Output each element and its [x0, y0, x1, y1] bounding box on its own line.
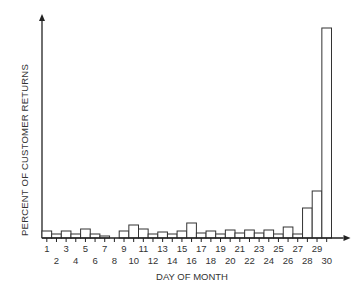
x-tick-label: 26 [283, 255, 294, 266]
bar-day-3 [61, 231, 71, 238]
x-tick-label: 1 [44, 243, 49, 254]
bar-day-15 [177, 231, 187, 238]
x-tick-label: 13 [157, 243, 168, 254]
x-axis-arrow-icon [344, 235, 351, 241]
x-tick-label: 3 [63, 243, 68, 254]
bar-day-30 [322, 28, 332, 238]
x-tick-label: 19 [215, 243, 226, 254]
x-tick-label: 6 [92, 255, 97, 266]
x-tick-label: 4 [73, 255, 78, 266]
bar-day-16 [187, 223, 197, 238]
bar-day-24 [264, 230, 274, 238]
x-tick-label: 7 [102, 243, 107, 254]
bar-day-9 [119, 231, 129, 238]
bar-day-22 [245, 230, 255, 238]
x-tick-label: 24 [263, 255, 274, 266]
x-tick-label: 23 [254, 243, 265, 254]
x-tick-label: 28 [302, 255, 313, 266]
x-tick-label: 16 [186, 255, 197, 266]
bar-day-23 [254, 233, 264, 238]
x-tick-label: 27 [292, 243, 303, 254]
x-tick-label: 17 [196, 243, 207, 254]
x-tick-label: 9 [121, 243, 126, 254]
x-tick-label: 20 [225, 255, 236, 266]
bar-day-20 [225, 230, 235, 238]
x-tick-label: 14 [167, 255, 178, 266]
x-tick-label: 8 [112, 255, 117, 266]
x-tick-label: 10 [128, 255, 139, 266]
x-tick-label: 29 [312, 243, 323, 254]
x-tick-label: 22 [244, 255, 255, 266]
x-tick-label: 12 [148, 255, 159, 266]
bar-day-1 [42, 231, 52, 238]
bar-day-5 [81, 229, 91, 238]
x-tick-label: 30 [321, 255, 332, 266]
bar-day-26 [283, 227, 293, 238]
y-axis-arrow-icon [39, 14, 45, 21]
bar-day-28 [303, 208, 313, 238]
bar-day-18 [206, 231, 216, 238]
x-tick-label: 18 [206, 255, 217, 266]
bar-day-11 [139, 229, 149, 238]
x-tick-label: 15 [177, 243, 188, 254]
bar-day-13 [158, 232, 168, 238]
bar-day-21 [235, 233, 245, 238]
bar-day-10 [129, 225, 139, 238]
histogram-chart: PERCENT OF CUSTOMER RETURNS DAY OF MONTH… [0, 0, 364, 295]
x-tick-label: 21 [235, 243, 246, 254]
x-tick-label: 25 [273, 243, 284, 254]
x-axis-label: DAY OF MONTH [0, 271, 364, 282]
x-tick-label: 11 [138, 243, 148, 254]
x-tick-label: 5 [83, 243, 88, 254]
bar-day-17 [196, 233, 206, 238]
y-axis-label: PERCENT OF CUSTOMER RETURNS [19, 64, 30, 236]
bar-day-29 [312, 191, 322, 238]
x-tick-label: 2 [54, 255, 59, 266]
